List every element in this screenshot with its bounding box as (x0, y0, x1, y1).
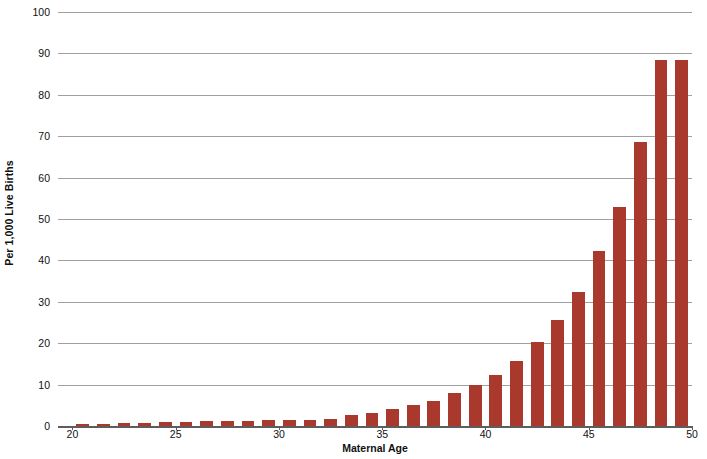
bar-age-33 (345, 415, 358, 426)
bar-age-37 (427, 401, 440, 426)
y-tick-label-0: 0 (44, 420, 50, 432)
bar-age-27 (221, 421, 234, 426)
y-tick-label-80: 80 (38, 89, 50, 101)
bar-age-21 (97, 424, 110, 427)
y-tick-label-70: 70 (38, 130, 50, 142)
bar-age-24 (159, 422, 172, 426)
bar-age-28 (242, 421, 255, 426)
bar-age-48 (655, 60, 668, 426)
y-tick-label-10: 10 (38, 379, 50, 391)
bar-age-23 (138, 423, 151, 426)
y-tick-label-90: 90 (38, 47, 50, 59)
bar-age-43 (551, 320, 564, 426)
y-tick-label-20: 20 (38, 337, 50, 349)
bar-age-30 (283, 420, 296, 426)
x-axis-title: Maternal Age (58, 442, 692, 454)
bar-chart: Per 1,000 Live Births 010203040506070809… (0, 0, 707, 459)
x-tick-mark-35 (382, 426, 383, 430)
bar-age-35 (386, 409, 399, 426)
bar-age-45 (593, 251, 606, 426)
y-axis-title: Per 1,000 Live Births (0, 0, 18, 426)
x-tick-mark-25 (176, 426, 177, 430)
y-tick-label-40: 40 (38, 254, 50, 266)
bar-age-46 (613, 207, 626, 426)
plot-area (58, 12, 692, 426)
bar-age-31 (304, 420, 317, 426)
x-tick-mark-40 (485, 426, 486, 430)
bar-age-41 (510, 361, 523, 426)
bar-age-32 (324, 419, 337, 426)
x-tick-mark-20 (72, 426, 73, 430)
bar-age-34 (366, 413, 379, 426)
bar-age-22 (118, 423, 131, 426)
bar-age-39 (469, 385, 482, 426)
y-tick-label-50: 50 (38, 213, 50, 225)
x-tick-mark-45 (589, 426, 590, 430)
bar-age-36 (407, 405, 420, 426)
bar-age-44 (572, 292, 585, 426)
bar-age-40 (489, 375, 502, 426)
bar-age-49 (675, 60, 688, 426)
bar-age-38 (448, 393, 461, 426)
y-tick-label-30: 30 (38, 296, 50, 308)
bar-age-20 (76, 424, 89, 427)
bar-age-42 (531, 342, 544, 426)
y-axis-tick-labels: 0102030405060708090100 (18, 0, 54, 459)
bar-age-26 (200, 421, 213, 426)
bar-age-47 (634, 142, 647, 426)
y-axis-title-text: Per 1,000 Live Births (3, 160, 15, 265)
bar-age-25 (180, 422, 193, 426)
x-tick-mark-30 (279, 426, 280, 430)
bar-age-29 (262, 420, 275, 426)
y-tick-label-60: 60 (38, 172, 50, 184)
x-tick-mark-50 (692, 426, 693, 430)
bars-layer (58, 12, 692, 426)
y-tick-label-100: 100 (32, 6, 50, 18)
